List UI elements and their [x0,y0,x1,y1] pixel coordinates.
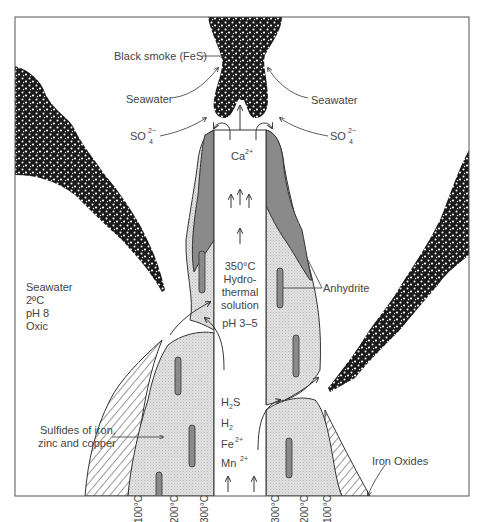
svg-text:Mn: Mn [221,457,236,469]
vent-diagram: Black smoke (FeS) Seawater Seawater SO 4… [0,0,485,522]
svg-text:H: H [221,396,229,408]
svg-text:Ca: Ca [231,150,246,162]
svg-text:300°C: 300°C [270,495,281,522]
svg-text:200°C: 200°C [299,495,310,522]
svg-text:2+: 2+ [245,148,253,155]
label-seawater-left: Seawater [126,93,173,105]
svg-text:2ºC: 2ºC [26,294,44,306]
svg-text:solution: solution [221,299,259,311]
svg-text:S: S [233,396,240,408]
anhydrite-vein [199,251,205,293]
svg-text:pH 3–5: pH 3–5 [222,317,257,329]
svg-text:350°C: 350°C [225,260,256,272]
anhydrite-vein [286,438,292,478]
anhydrite-vein [293,335,299,377]
anhydrite-vein [175,357,181,395]
right-smoke-plume [328,150,469,392]
label-anhydrite: Anhydrite [323,282,369,294]
top-smoke-plume [208,17,282,118]
svg-text:Sulfides of iron,: Sulfides of iron, [40,424,116,436]
label-sulfides: Sulfides of iron, zinc and copper [38,424,116,449]
label-iron-oxides: Iron Oxides [372,455,429,467]
svg-text:SO: SO [330,130,346,142]
anhydrite-vein [156,472,162,498]
svg-text:H: H [221,417,229,429]
svg-text:Seawater: Seawater [26,281,73,293]
svg-text:Fe: Fe [221,438,234,450]
label-black-smoke: Black smoke (FeS) [114,50,207,62]
label-sulfate-left: SO 4 2− [130,127,156,145]
label-sulfate-right: SO 4 2− [330,127,356,145]
label-hydrothermal-solution: 350°C Hydro- thermal solution pH 3–5 [221,260,259,329]
svg-text:SO: SO [130,130,146,142]
svg-text:100°C: 100°C [322,495,333,522]
isotherms-right: 300°C 200°C 100°C [270,495,333,522]
svg-text:2: 2 [229,424,233,431]
anhydrite-vein [277,268,283,308]
isotherms-left: 100°C 200°C 300°C [133,495,210,522]
svg-text:100°C: 100°C [133,495,144,522]
svg-text:2−: 2− [148,127,156,134]
anhydrite-vein [189,425,195,467]
svg-text:pH 8: pH 8 [26,307,49,319]
svg-text:4: 4 [149,138,153,145]
label-seawater-right: Seawater [311,94,358,106]
svg-text:300°C: 300°C [199,495,210,522]
svg-text:2−: 2− [348,127,356,134]
svg-text:4: 4 [349,138,353,145]
svg-text:2+: 2+ [240,455,248,462]
label-ambient-seawater: Seawater 2ºC pH 8 Oxic [26,281,73,332]
svg-text:2+: 2+ [235,436,243,443]
svg-text:200°C: 200°C [169,495,180,522]
svg-text:zinc and copper: zinc and copper [38,437,116,449]
svg-text:thermal: thermal [222,286,259,298]
sulfide-mound-right [266,398,342,496]
svg-text:Oxic: Oxic [26,320,49,332]
svg-text:Hydro-: Hydro- [223,273,256,285]
